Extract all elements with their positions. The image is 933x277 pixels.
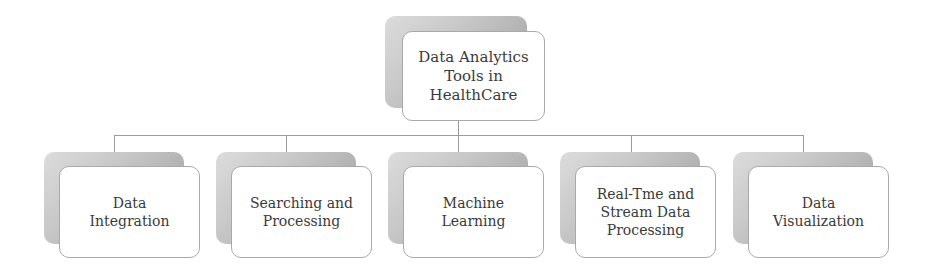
child-connector xyxy=(286,135,287,152)
child-node-label: Searching and Processing xyxy=(250,194,353,230)
child-connector xyxy=(803,135,804,152)
child-node-data-integration: Data Integration xyxy=(59,166,200,258)
child-node-label: Real-Tme and Stream Data Processing xyxy=(597,185,695,239)
child-connector xyxy=(114,135,115,152)
child-node-realtime-stream: Real-Tme and Stream Data Processing xyxy=(575,166,716,258)
horizontal-connector xyxy=(114,135,804,136)
child-node-label: Data Integration xyxy=(89,194,169,230)
child-connector xyxy=(631,135,632,152)
child-node-searching-processing: Searching and Processing xyxy=(231,166,372,258)
child-node-label: Data Visualization xyxy=(773,194,864,230)
child-node-machine-learning: Machine Learning xyxy=(403,166,544,258)
child-node-label: Machine Learning xyxy=(441,194,505,230)
root-node-label: Data Analytics Tools in HealthCare xyxy=(418,48,528,105)
child-connector xyxy=(458,135,459,152)
root-node: Data Analytics Tools in HealthCare xyxy=(402,31,545,121)
root-connector xyxy=(458,121,459,136)
child-node-data-visualization: Data Visualization xyxy=(748,166,889,258)
